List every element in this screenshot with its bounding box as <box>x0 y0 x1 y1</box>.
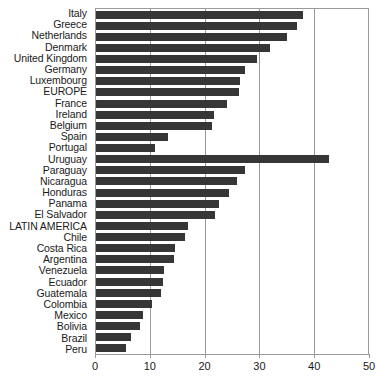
bar <box>96 244 175 252</box>
category-label: Portugal <box>0 142 91 153</box>
bar-row <box>96 42 368 53</box>
category-label: Venezuela <box>0 265 91 276</box>
bar <box>96 200 219 208</box>
category-label: Uruguay <box>0 153 91 164</box>
bar-row <box>96 220 368 231</box>
bar <box>96 289 161 297</box>
axis-baseline <box>95 354 369 355</box>
bar-row <box>96 131 368 142</box>
bar <box>96 233 185 241</box>
bar-row <box>96 98 368 109</box>
bar <box>96 122 212 130</box>
x-tick-label: 10 <box>144 360 156 373</box>
bar-row <box>96 254 368 265</box>
category-label: Bolivia <box>0 321 91 332</box>
bar <box>96 111 214 119</box>
x-tick-label: 0 <box>92 360 98 373</box>
bar <box>96 311 143 319</box>
bar <box>96 300 152 308</box>
x-tick-label: 40 <box>308 360 320 373</box>
bar-row <box>96 198 368 209</box>
bar-row <box>96 54 368 65</box>
bar <box>96 22 297 30</box>
bar <box>96 189 229 197</box>
bar <box>96 322 140 330</box>
bar <box>96 344 126 352</box>
bar <box>96 11 303 19</box>
category-label: Ecuador <box>0 277 91 288</box>
x-tick-mark <box>95 354 96 358</box>
bar <box>96 44 270 52</box>
bar-row <box>96 31 368 42</box>
bar <box>96 144 155 152</box>
bar-row <box>96 9 368 20</box>
x-tick-mark <box>314 354 315 358</box>
x-axis-line <box>95 354 369 356</box>
bar-row <box>96 176 368 187</box>
horizontal-bar-chart: ItalyGreeceNetherlandsDenmarkUnited King… <box>0 0 376 385</box>
bar-row <box>96 154 368 165</box>
bar <box>96 177 237 185</box>
bars-container <box>96 9 368 354</box>
x-tick-mark <box>205 354 206 358</box>
bar-row <box>96 309 368 320</box>
bar <box>96 278 163 286</box>
bar-row <box>96 321 368 332</box>
bar <box>96 88 239 96</box>
x-tick-mark <box>259 354 260 358</box>
bar <box>96 333 131 341</box>
bar-row <box>96 287 368 298</box>
bar <box>96 166 245 174</box>
bar-row <box>96 332 368 343</box>
bar <box>96 66 245 74</box>
bar <box>96 266 164 274</box>
category-label: EUROPE <box>0 86 91 97</box>
plot-area <box>95 8 369 355</box>
bar-row <box>96 243 368 254</box>
bar-row <box>96 232 368 243</box>
category-axis-labels: ItalyGreeceNetherlandsDenmarkUnited King… <box>0 8 91 355</box>
bar-row <box>96 76 368 87</box>
category-label: Netherlands <box>0 30 91 41</box>
bar <box>96 55 257 63</box>
bar-row <box>96 276 368 287</box>
bar-row <box>96 298 368 309</box>
x-axis-tick-labels: 01020304050 <box>0 360 376 378</box>
bar-row <box>96 265 368 276</box>
category-label: Peru <box>0 344 91 355</box>
category-label: France <box>0 98 91 109</box>
bar <box>96 33 287 41</box>
bar-row <box>96 187 368 198</box>
category-label: Brazil <box>0 332 91 343</box>
category-label: El Salvador <box>0 209 91 220</box>
x-tick-mark <box>369 354 370 358</box>
bar <box>96 133 168 141</box>
bar-row <box>96 209 368 220</box>
bar-row <box>96 143 368 154</box>
bar-row <box>96 120 368 131</box>
bar-row <box>96 109 368 120</box>
bar-row <box>96 65 368 76</box>
x-tick-mark <box>150 354 151 358</box>
bar <box>96 255 174 263</box>
bar <box>96 155 329 163</box>
bar-row <box>96 20 368 31</box>
bar <box>96 222 188 230</box>
x-tick-label: 30 <box>253 360 265 373</box>
bar-row <box>96 343 368 354</box>
bar-row <box>96 87 368 98</box>
bar <box>96 100 227 108</box>
bar <box>96 77 240 85</box>
bar-row <box>96 165 368 176</box>
x-tick-label: 20 <box>198 360 210 373</box>
x-tick-label: 50 <box>363 360 375 373</box>
bar <box>96 211 215 219</box>
